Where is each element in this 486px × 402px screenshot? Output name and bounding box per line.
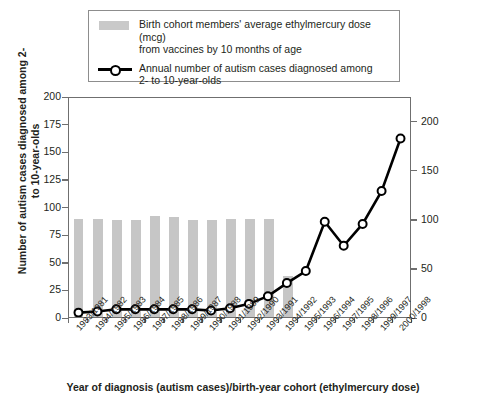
legend-line-line2: 2- to 10-year-olds xyxy=(139,74,221,86)
y-right-tick-label: 50 xyxy=(421,262,433,274)
legend-bar-line2: from vaccines by 10 months of age xyxy=(139,43,302,55)
line-marker-1996-1994 xyxy=(321,218,329,226)
line-series xyxy=(69,98,410,317)
y-right-tick-label: 150 xyxy=(421,164,439,176)
y-left-tick-label: 100 xyxy=(43,201,61,213)
line-marker-1999-1997 xyxy=(378,187,386,195)
line-marker-1994-1992 xyxy=(283,279,291,287)
line-marker-1983-1981 xyxy=(74,309,82,317)
y-right-tick xyxy=(411,170,417,171)
line-path xyxy=(78,139,400,313)
chart-legend: Birth cohort members' average ethylmercu… xyxy=(88,10,400,82)
y-left-tick-label: 25 xyxy=(49,283,61,295)
legend-item-bar-text: Birth cohort members' average ethylmercu… xyxy=(139,18,391,56)
legend-item-bar: Birth cohort members' average ethylmercu… xyxy=(97,18,391,56)
y-left-tick-label: 75 xyxy=(49,228,61,240)
bar-swatch-icon xyxy=(97,18,139,30)
legend-item-line: Annual number of autism cases diagnosed … xyxy=(97,62,391,87)
legend-line-line1: Annual number of autism cases diagnosed … xyxy=(139,62,372,74)
line-marker-2000-1998 xyxy=(397,135,405,143)
line-marker-1997-1995 xyxy=(340,242,348,250)
y-left-tick-label: 200 xyxy=(43,90,61,102)
line-marker-1995-1993 xyxy=(302,267,310,275)
line-marker-1998-1996 xyxy=(359,220,367,228)
y-right-tick-label: 200 xyxy=(421,115,439,127)
y-left-tick-label: 150 xyxy=(43,145,61,157)
x-tick xyxy=(68,318,69,323)
y-left-tick-label: 125 xyxy=(43,173,61,185)
y-left-tick-label: 175 xyxy=(43,118,61,130)
legend-item-line-text: Annual number of autism cases diagnosed … xyxy=(139,62,372,87)
y-left-tick-label: 50 xyxy=(49,256,61,268)
y-left-tick-label: 0 xyxy=(55,311,61,323)
x-axis-title: Year of diagnosis (autism cases)/birth-y… xyxy=(0,381,486,393)
y-right-tick xyxy=(411,219,417,220)
legend-bar-line1: Birth cohort members' average ethylmercu… xyxy=(139,18,371,43)
y-right-tick xyxy=(411,268,417,269)
plot-area xyxy=(68,97,411,318)
y-axis-left-title: Number of autism cases diagnosed among 2… xyxy=(16,46,42,276)
line-swatch-icon xyxy=(97,62,139,74)
y-right-tick-label: 100 xyxy=(421,213,439,225)
y-right-tick xyxy=(411,121,417,122)
